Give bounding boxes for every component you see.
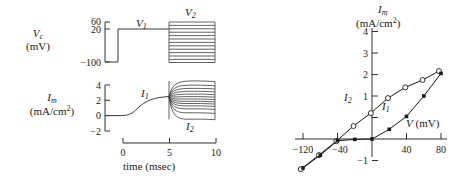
iv-y-axis-label: Im (mA/cm2) bbox=[378, 4, 400, 30]
v1-subscript: 1 bbox=[143, 22, 147, 31]
i1-trace-subscript: 1 bbox=[145, 92, 149, 101]
im-y-axis bbox=[105, 85, 110, 131]
i1-current-trace bbox=[105, 97, 169, 116]
im-tick-2: 2 bbox=[96, 95, 101, 106]
iv-xlabel-units: (mV) bbox=[415, 117, 439, 129]
i2-current-family bbox=[169, 81, 215, 120]
iv-xtick-80: 80 bbox=[436, 144, 446, 155]
v2-trace-label: V2 bbox=[185, 7, 196, 20]
i2-trace-label: I2 bbox=[186, 121, 194, 134]
time-tick-5: 5 bbox=[167, 147, 172, 158]
i1-trace-label: I1 bbox=[141, 88, 149, 101]
iv-series-label-i2: I2 bbox=[344, 92, 352, 105]
voltage-command-trace bbox=[105, 29, 169, 62]
v2-symbol: V bbox=[185, 6, 192, 18]
im-tick-neg2: −2 bbox=[90, 126, 101, 137]
v1-trace-label: V1 bbox=[136, 18, 147, 31]
i2-label-subscript: 2 bbox=[348, 96, 352, 105]
iv-xtick-neg40: −40 bbox=[332, 144, 348, 155]
vc-tick-20: 20 bbox=[91, 24, 101, 35]
iv-xtick-40: 40 bbox=[402, 144, 412, 155]
iv-ytick-2: 2 bbox=[363, 69, 368, 80]
time-tick-0: 0 bbox=[121, 147, 126, 158]
iv-ytick-neg1: −1 bbox=[357, 155, 368, 166]
i2-trace-subscript: 2 bbox=[190, 125, 194, 134]
v1-symbol: V bbox=[136, 17, 143, 29]
iv-series-label-i1: I1 bbox=[382, 101, 390, 114]
iv-ytick-1: 1 bbox=[363, 91, 368, 102]
im-tick-4: 4 bbox=[96, 80, 101, 91]
iv-xtick-neg120: −120 bbox=[293, 144, 314, 155]
iv-ylabel-units: (mA/cm bbox=[356, 17, 393, 29]
iv-ytick-3: 3 bbox=[363, 48, 368, 59]
i1-label-subscript: 1 bbox=[386, 105, 390, 114]
time-axis bbox=[123, 138, 216, 143]
iv-xlabel-symbol: V bbox=[406, 117, 413, 129]
time-tick-10: 10 bbox=[211, 147, 221, 158]
v2-subscript: 2 bbox=[192, 11, 196, 20]
voltage-clamp-figure: Vc (mV) Im (mA/cm2) 60 20 −100 bbox=[0, 0, 457, 187]
iv-ylabel-units-close: ) bbox=[397, 17, 401, 29]
v2-step-family bbox=[169, 22, 215, 63]
vc-y-axis bbox=[105, 22, 110, 62]
iv-ylabel-subscript: m bbox=[382, 8, 388, 17]
time-axis-title: time (msec) bbox=[123, 161, 175, 173]
vc-tick-neg100: −100 bbox=[80, 57, 101, 68]
iv-x-axis-label: V (mV) bbox=[406, 118, 439, 130]
im-tick-0: 0 bbox=[96, 110, 101, 121]
